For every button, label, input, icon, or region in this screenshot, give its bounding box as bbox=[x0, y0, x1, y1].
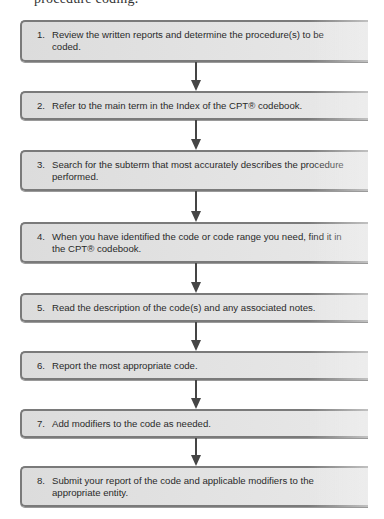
step-text: When you have identified the code or cod… bbox=[52, 231, 348, 255]
step-text: Read the description of the code(s) and … bbox=[52, 302, 315, 314]
step-number: 2. bbox=[37, 100, 52, 112]
down-arrow-icon bbox=[191, 191, 201, 222]
step-number: 6. bbox=[37, 360, 52, 372]
step-number: 3. bbox=[37, 159, 52, 183]
step-text: Submit your report of the code and appli… bbox=[52, 475, 348, 499]
flow-step-8: 8. Submit your report of the code and ap… bbox=[20, 466, 368, 507]
down-arrow-icon bbox=[191, 62, 201, 91]
flow-step-2: 2. Refer to the main term in the Index o… bbox=[20, 91, 368, 120]
flow-step-6: 6. Report the most appropriate code. bbox=[20, 351, 368, 380]
down-arrow-icon bbox=[191, 380, 201, 409]
down-arrow-icon bbox=[191, 322, 201, 351]
step-text: Report the most appropriate code. bbox=[52, 360, 198, 372]
step-text: Review the written reports and determine… bbox=[52, 29, 348, 53]
flow-step-4: 4. When you have identified the code or … bbox=[20, 222, 368, 263]
step-number: 1. bbox=[37, 29, 52, 53]
step-number: 5. bbox=[37, 302, 52, 314]
down-arrow-icon bbox=[191, 263, 201, 293]
step-number: 8. bbox=[37, 475, 52, 499]
step-text: Refer to the main term in the Index of t… bbox=[52, 100, 302, 112]
step-number: 7. bbox=[37, 418, 52, 430]
step-text: Add modifiers to the code as needed. bbox=[52, 418, 211, 430]
step-number: 4. bbox=[37, 231, 52, 255]
step-text: Search for the subterm that most accurat… bbox=[52, 159, 348, 183]
flow-step-7: 7. Add modifiers to the code as needed. bbox=[20, 409, 368, 438]
cutoff-caption-text: procedure coding. bbox=[34, 0, 138, 7]
down-arrow-icon bbox=[191, 120, 201, 150]
flow-step-5: 5. Read the description of the code(s) a… bbox=[20, 293, 368, 322]
flow-step-3: 3. Search for the subterm that most accu… bbox=[20, 150, 368, 191]
down-arrow-icon bbox=[191, 438, 201, 466]
flow-step-1: 1. Review the written reports and determ… bbox=[20, 20, 368, 62]
